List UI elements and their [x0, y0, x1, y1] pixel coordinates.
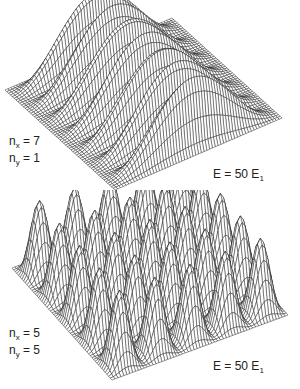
ny-label: ny = 5: [9, 343, 40, 362]
surface-plot-nx5-ny5: nx = 5 ny = 5 E = 50 E1: [0, 190, 300, 389]
energy-label: E = 50 E1: [213, 359, 264, 378]
ny-label: ny = 1: [9, 151, 40, 170]
surface-plot-nx7-ny1: nx = 7 ny = 1 E = 50 E1: [0, 0, 300, 195]
energy-label: E = 50 E1: [213, 167, 264, 186]
wireframe-surface: [0, 0, 300, 195]
